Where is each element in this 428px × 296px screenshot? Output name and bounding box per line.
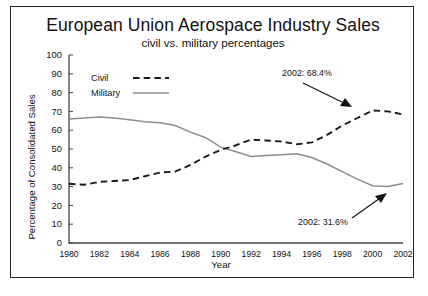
annotation-military-label: 2002: 31.6%	[298, 217, 348, 227]
x-tick-label: 1988	[181, 249, 200, 259]
x-axis-title: Year	[211, 259, 231, 270]
series-line-military	[69, 117, 403, 187]
x-axis-tick-labels: 1980198219841986198819901992199419961998…	[59, 249, 412, 259]
legend-label-civil: Civil	[91, 73, 108, 83]
series-line-civil	[69, 110, 403, 184]
x-tick-label: 1992	[242, 249, 261, 259]
y-tick-label: 40	[52, 162, 62, 173]
x-tick-label: 1994	[272, 249, 291, 259]
y-tick-label: 30	[52, 181, 62, 192]
y-tick-label: 10	[52, 218, 62, 229]
chart-figure: European Union Aerospace Industry Sales …	[0, 0, 428, 296]
x-tick-label: 1986	[151, 249, 170, 259]
annotation-civil-arrow-line	[303, 83, 348, 105]
chart-frame: European Union Aerospace Industry Sales …	[10, 6, 414, 278]
x-tick-label: 1996	[302, 249, 321, 259]
chart-legend: Civil Military	[91, 73, 169, 98]
x-tick-label: 1982	[90, 249, 109, 259]
y-axis-title: Percentage of Consolidated Sales	[26, 94, 37, 239]
y-tick-label: 70	[52, 106, 62, 117]
y-tick-label: 50	[52, 143, 62, 154]
y-tick-label: 100	[46, 49, 62, 60]
plot-area: 0102030405060708090100 19801982198419861…	[11, 7, 415, 277]
y-tick-label: 80	[52, 87, 62, 98]
annotation-military-arrow-head	[375, 193, 387, 203]
legend-label-military: Military	[91, 88, 120, 98]
x-tick-label: 2002	[393, 249, 412, 259]
annotation-civil: 2002: 68.4%	[282, 68, 352, 107]
y-tick-label: 0	[57, 237, 62, 248]
x-tick-label: 1984	[120, 249, 139, 259]
x-tick-label: 2000	[363, 249, 382, 259]
y-tick-label: 90	[52, 68, 62, 79]
x-tick-label: 1998	[333, 249, 352, 259]
y-tick-label: 20	[52, 200, 62, 211]
x-tick-label: 1990	[211, 249, 230, 259]
annotation-civil-label: 2002: 68.4%	[282, 68, 332, 78]
x-tick-label: 1980	[59, 249, 78, 259]
annotation-military: 2002: 31.6%	[298, 193, 387, 227]
y-tick-label: 60	[52, 124, 62, 135]
axis-lines	[69, 55, 403, 243]
